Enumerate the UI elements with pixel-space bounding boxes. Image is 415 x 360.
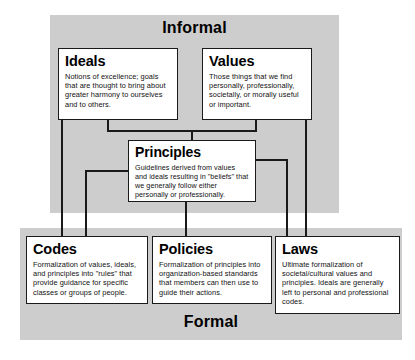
node-codes[interactable]: Codes Formalization of values, ideals, a… <box>26 236 148 304</box>
node-codes-body: Formalization of values, ideals, and pri… <box>33 260 141 297</box>
diagram-canvas: Informal Formal Ideals Notions of excell… <box>0 0 415 360</box>
line-values-to-principles <box>192 120 256 131</box>
line-ideals-to-principles <box>108 120 192 140</box>
node-ideals[interactable]: Ideals Notions of excellence; goals that… <box>58 48 178 120</box>
node-values[interactable]: Values Those things that we find persona… <box>202 48 312 120</box>
node-values-body: Those things that we find personally, pr… <box>209 72 305 109</box>
node-policies-body: Formalization of principles into organiz… <box>159 260 265 297</box>
node-policies-title: Policies <box>159 241 265 258</box>
node-ideals-body: Notions of excellence; goals that are th… <box>65 72 171 109</box>
node-principles-body: Guidelines derived from values and ideal… <box>135 163 249 199</box>
node-laws[interactable]: Laws Ultimate formalization of societal/… <box>275 236 400 314</box>
node-principles[interactable]: Principles Guidelines derived from value… <box>128 140 256 202</box>
node-laws-title: Laws <box>282 241 393 258</box>
node-laws-body: Ultimate formalization of societal/cultu… <box>282 260 393 306</box>
node-values-title: Values <box>209 53 305 70</box>
line-principles-to-codes <box>86 171 128 236</box>
node-principles-title: Principles <box>135 144 249 161</box>
line-principles-to-laws <box>256 160 287 236</box>
node-policies[interactable]: Policies Formalization of principles int… <box>152 236 272 304</box>
node-ideals-title: Ideals <box>65 53 171 70</box>
node-codes-title: Codes <box>33 241 141 258</box>
